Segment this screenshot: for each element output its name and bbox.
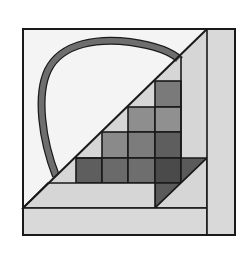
cell [102, 158, 128, 183]
cell [155, 81, 181, 107]
cell [128, 107, 155, 132]
right-border-strip [207, 29, 235, 235]
cell [155, 132, 181, 158]
cell [76, 158, 102, 183]
cell [102, 132, 128, 158]
cell [128, 132, 155, 158]
basket-quilt-block [0, 0, 249, 253]
cell [155, 107, 181, 132]
cell [128, 158, 155, 183]
bottom-border-strip [23, 208, 207, 235]
cell [155, 158, 181, 183]
